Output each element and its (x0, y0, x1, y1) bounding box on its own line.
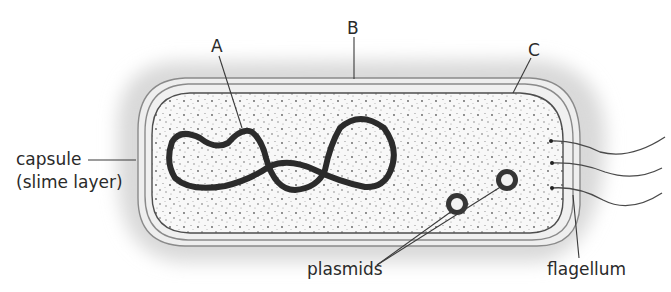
label-b: B (347, 18, 359, 38)
label-capsule: capsule (16, 149, 81, 169)
label-c: C (528, 40, 540, 60)
label-plasmids: plasmids (307, 259, 383, 279)
cell-membrane (152, 93, 563, 233)
bacterium-diagram: A B C capsule (slime layer) plasmids fla… (0, 0, 671, 292)
label-slime-layer: (slime layer) (16, 172, 123, 192)
label-flagellum: flagellum (547, 259, 626, 279)
plasmid-1 (449, 196, 466, 213)
label-a: A (211, 36, 223, 56)
